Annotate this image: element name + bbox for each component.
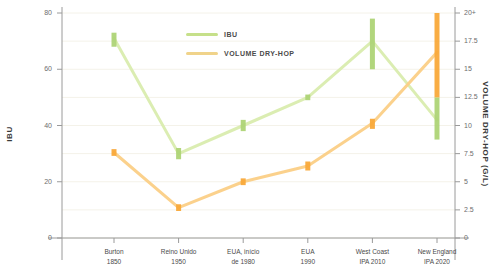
left-axis-tick-label: 80 xyxy=(20,9,52,16)
x-axis-category-line: New England xyxy=(418,247,457,257)
x-axis-category-line: de 1980 xyxy=(227,257,259,267)
right-axis-tick-label: 5 xyxy=(464,178,468,185)
right-axis-tick-label: 17.5 xyxy=(464,37,478,44)
left-axis-tick-label: 20 xyxy=(20,178,52,185)
series-line-volume-dry-hop xyxy=(114,52,437,207)
plot-area xyxy=(0,0,502,268)
x-axis-category-line: IPA 2020 xyxy=(418,257,457,267)
x-axis-category-line: 1850 xyxy=(104,257,123,267)
chart-container: IBU VOLUME DRY-HOP (G/L) IBU VOLUME DRY-… xyxy=(0,0,502,268)
legend-swatch-volume-dry-hop xyxy=(186,52,218,55)
right-axis-tick-label: 2.5 xyxy=(464,206,474,213)
left-axis-title: IBU xyxy=(5,126,14,142)
legend-item-ibu[interactable]: IBU xyxy=(186,31,238,38)
x-axis-category-label: EUA1990 xyxy=(301,247,315,267)
left-axis-tick-label: 40 xyxy=(20,122,52,129)
legend-swatch-ibu xyxy=(186,33,218,36)
left-axis-tick-label: 0 xyxy=(20,234,52,241)
x-axis-category-label: Reino Unido1950 xyxy=(161,247,197,267)
right-axis-title: VOLUME DRY-HOP (G/L) xyxy=(481,69,490,199)
x-axis-category-line: West Coast xyxy=(356,247,389,257)
x-axis-category-label: New EnglandIPA 2020 xyxy=(418,247,457,267)
x-axis-category-line: Burton xyxy=(104,247,123,257)
x-axis-category-line: EUA, início xyxy=(227,247,259,257)
right-axis-tick-label: 7.5 xyxy=(464,150,474,157)
legend-item-volume-dry-hop[interactable]: VOLUME DRY-HOP xyxy=(186,50,295,57)
x-axis-category-line: EUA xyxy=(301,247,315,257)
x-axis-category-line: 1990 xyxy=(301,257,315,267)
right-axis-tick-label: 12.5 xyxy=(464,93,478,100)
x-axis-category-line: Reino Unido xyxy=(161,247,197,257)
x-axis-category-line: 1950 xyxy=(161,257,197,267)
x-axis-category-label: EUA, iníciode 1980 xyxy=(227,247,259,267)
right-axis-tick-label: 10 xyxy=(464,122,472,129)
x-axis-category-line: IPA 2010 xyxy=(356,257,389,267)
x-axis-category-label: West CoastIPA 2010 xyxy=(356,247,389,267)
right-axis-tick-label: 0 xyxy=(464,234,468,241)
right-axis-tick-label: 20+ xyxy=(464,9,476,16)
legend-label-volume-dry-hop: VOLUME DRY-HOP xyxy=(224,50,295,57)
left-axis-tick-label: 60 xyxy=(20,65,52,72)
legend-label-ibu: IBU xyxy=(224,31,238,38)
x-axis-category-label: Burton1850 xyxy=(104,247,123,267)
right-axis-tick-label: 15 xyxy=(464,65,472,72)
